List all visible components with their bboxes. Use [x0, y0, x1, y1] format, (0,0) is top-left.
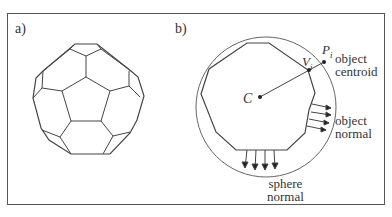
sphere-normal-arrows: [242, 150, 278, 170]
bounding-sphere: [196, 37, 336, 177]
annotation-line: normal: [335, 127, 372, 140]
object-centroid-annotation: object centroid: [335, 52, 378, 78]
sphere-diagram: [196, 37, 336, 177]
figure-canvas: [0, 0, 392, 217]
sphere-point-letter: P: [322, 42, 330, 57]
sphere-normal-annotation: sphere normal: [267, 177, 304, 203]
annotation-line: normal: [267, 190, 304, 203]
object-polygon: [201, 43, 315, 150]
sphere-point: [322, 60, 326, 64]
vertex-subscript: i: [310, 62, 313, 72]
soccer-ball-wireframe: [33, 44, 144, 154]
annotation-line: centroid: [335, 65, 378, 78]
center-point: [258, 95, 262, 99]
panel-a-label: a): [15, 22, 26, 36]
sphere-point-label: Pi: [322, 43, 332, 60]
vertex-label: Vi: [302, 55, 312, 72]
center-label: C: [243, 92, 252, 106]
sphere-point-subscript: i: [330, 50, 333, 60]
object-normal-annotation: object normal: [335, 114, 372, 140]
panel-b-label: b): [175, 22, 187, 36]
vertex-letter: V: [302, 54, 310, 69]
object-normal-arrows: [307, 104, 331, 132]
